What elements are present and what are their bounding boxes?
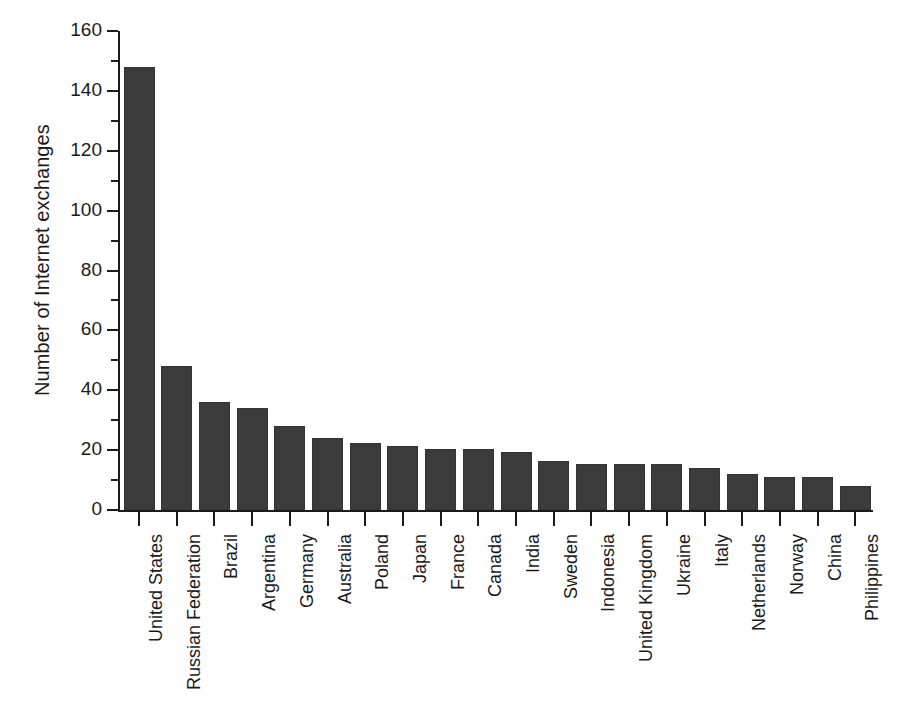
bar: [350, 443, 381, 510]
bar: [802, 477, 833, 510]
y-tick-major: [107, 509, 118, 511]
x-axis-label: Australia: [335, 534, 355, 704]
y-tick-minor: [111, 180, 118, 182]
x-tick: [327, 512, 329, 526]
bar: [727, 474, 758, 510]
y-tick-major: [107, 210, 118, 212]
bar: [387, 446, 418, 510]
y-tick-label: 160: [40, 19, 102, 41]
x-tick: [477, 512, 479, 526]
y-tick-major: [107, 329, 118, 331]
x-tick: [854, 512, 856, 526]
y-tick-label: 140: [40, 79, 102, 101]
x-axis-label: Italy: [712, 534, 732, 704]
bar: [689, 468, 720, 510]
x-tick: [704, 512, 706, 526]
x-tick: [440, 512, 442, 526]
y-tick-label: 80: [40, 259, 102, 281]
y-tick-major: [107, 449, 118, 451]
x-axis-label: United Kingdom: [636, 534, 656, 704]
bar: [651, 464, 682, 510]
x-tick: [138, 512, 140, 526]
bar: [614, 464, 645, 510]
x-axis-label: Russian Federation: [184, 534, 204, 704]
x-tick: [817, 512, 819, 526]
x-axis-label: Poland: [372, 534, 392, 704]
x-axis-label: Indonesia: [598, 534, 618, 704]
x-tick: [515, 512, 517, 526]
bar: [274, 426, 305, 510]
plot-area: [118, 31, 873, 510]
bar: [764, 477, 795, 510]
y-tick-major: [107, 150, 118, 152]
y-tick-minor: [111, 479, 118, 481]
bar: [124, 67, 155, 510]
y-tick-label: 120: [40, 139, 102, 161]
x-axis-label: Brazil: [221, 534, 241, 704]
bar: [840, 486, 871, 510]
x-axis-label: Japan: [410, 534, 430, 704]
y-tick-minor: [111, 240, 118, 242]
x-axis-label: India: [523, 534, 543, 704]
y-tick-minor: [111, 359, 118, 361]
y-tick-major: [107, 90, 118, 92]
x-axis-line: [118, 510, 873, 512]
x-tick: [628, 512, 630, 526]
y-tick-label: 0: [40, 498, 102, 520]
bar: [312, 438, 343, 510]
y-tick-minor: [111, 120, 118, 122]
x-tick: [553, 512, 555, 526]
x-tick: [590, 512, 592, 526]
y-tick-minor: [111, 299, 118, 301]
y-tick-label: 100: [40, 199, 102, 221]
bar: [161, 366, 192, 510]
x-tick: [251, 512, 253, 526]
x-tick: [176, 512, 178, 526]
x-tick: [289, 512, 291, 526]
bar: [463, 449, 494, 510]
x-tick: [364, 512, 366, 526]
x-axis-label: Germany: [297, 534, 317, 704]
bar: [538, 461, 569, 510]
x-axis-label: Argentina: [259, 534, 279, 704]
x-tick: [402, 512, 404, 526]
bar-chart: Number of Internet exchanges 02040608010…: [0, 0, 908, 707]
y-tick-major: [107, 270, 118, 272]
y-tick-label: 20: [40, 438, 102, 460]
x-tick: [779, 512, 781, 526]
y-tick-label: 40: [40, 378, 102, 400]
x-axis-label: Ukraine: [674, 534, 694, 704]
bar: [501, 452, 532, 510]
y-tick-minor: [111, 60, 118, 62]
x-axis-label: Norway: [787, 534, 807, 704]
y-tick-label: 60: [40, 318, 102, 340]
x-tick: [741, 512, 743, 526]
x-axis-label: China: [825, 534, 845, 704]
y-tick-minor: [111, 419, 118, 421]
x-tick: [213, 512, 215, 526]
bar: [576, 464, 607, 510]
x-axis-label: Sweden: [561, 534, 581, 704]
bar: [425, 449, 456, 510]
x-axis-label: France: [448, 534, 468, 704]
y-tick-major: [107, 30, 118, 32]
x-tick: [666, 512, 668, 526]
x-axis-label: United States: [146, 534, 166, 704]
x-axis-label: Netherlands: [749, 534, 769, 704]
x-axis-label: Philippines: [862, 534, 882, 704]
bar: [237, 408, 268, 510]
bar: [199, 402, 230, 510]
x-axis-label: Canada: [485, 534, 505, 704]
y-tick-major: [107, 389, 118, 391]
